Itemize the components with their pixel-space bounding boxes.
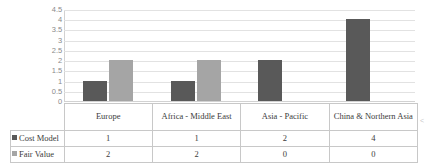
y-axis-tick-label: 3 [34,37,62,45]
y-axis-tick-label: 1 [34,78,62,86]
plot-area [64,10,415,102]
y-axis-tick-label: 0.5 [34,88,62,96]
bar-cost-model [346,19,370,101]
bar-group [64,10,152,101]
bar-cost-model [258,60,282,101]
table-corner-cell [11,104,65,131]
bar-group [327,10,415,101]
table-cell: 1 [64,131,152,147]
bar-group [152,10,240,101]
right-edge-artifact: < [420,118,425,123]
table-column-header: China & Northern Asia [329,104,417,131]
table-header-row: EuropeAfrica - Middle EastAsia - Pacific… [11,104,418,131]
table-cell: 2 [64,147,152,163]
plot-area-wrapper: 00.511.522.533.544.5 [0,0,431,110]
bar-fair-value [109,60,133,101]
legend-label: Cost Model [19,133,59,143]
legend-item-cost-model: Cost Model [11,131,65,147]
table-row: Fair Value2200 [11,147,418,163]
table-row: Cost Model1124 [11,131,418,147]
y-axis-tick-label: 2 [34,57,62,65]
bar-fair-value [197,60,221,101]
y-axis-tick-label: 2.5 [34,47,62,55]
legend-item-fair-value: Fair Value [11,147,65,163]
bar-cost-model [171,81,195,101]
legend-label: Fair Value [19,149,54,159]
table-column-header: Asia - Pacific [241,104,329,131]
table-cell: 2 [152,147,240,163]
bar-group [240,10,328,101]
y-axis-tick-label: 4.5 [34,6,62,14]
x-axis-line [64,101,415,102]
bar-chart-with-data-table: 00.511.522.533.544.5 EuropeAfrica - Midd… [0,0,431,166]
table-cell: 2 [241,131,329,147]
legend-swatch-icon [12,151,17,156]
y-axis-tick-label: 3.5 [34,27,62,35]
table-column-header: Europe [64,104,152,131]
y-axis: 00.511.522.533.544.5 [34,8,62,104]
y-axis-tick-label: 4 [34,16,62,24]
table-column-header: Africa - Middle East [152,104,240,131]
table-cell: 0 [241,147,329,163]
chart-data-table: EuropeAfrica - Middle EastAsia - Pacific… [10,103,418,163]
table-cell: 4 [329,131,417,147]
bar-cost-model [83,81,107,101]
table-cell: 1 [152,131,240,147]
table-cell: 0 [329,147,417,163]
y-axis-tick-label: 1.5 [34,68,62,76]
legend-swatch-icon [12,135,17,140]
